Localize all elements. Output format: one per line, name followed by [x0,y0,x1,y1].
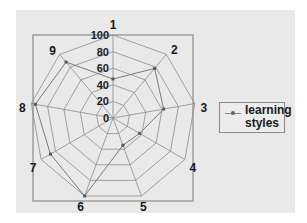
grid-spoke [85,118,113,196]
category-label-8: 8 [19,101,26,115]
tick-label: 20 [97,95,109,107]
legend-marker-icon [231,111,235,115]
data-point-marker [112,77,115,80]
grid-spoke [113,118,141,196]
category-label-9: 9 [49,44,56,58]
category-label-5: 5 [140,200,147,214]
legend-label: learning styles [245,104,285,130]
grid-spoke [113,104,195,118]
legend: learning styles [219,102,285,133]
data-point-marker [121,144,124,147]
data-point-marker [153,67,156,70]
category-label-7: 7 [30,161,37,175]
data-point-marker [49,153,52,156]
category-label-4: 4 [190,161,197,175]
category-label-1: 1 [110,18,117,32]
data-point-marker [34,103,37,106]
category-label-2: 2 [171,43,178,57]
radar-grid [31,35,194,196]
tick-label: 100 [91,29,109,41]
tick-label: 80 [97,46,109,58]
category-label-3: 3 [200,101,207,115]
category-label-6: 6 [77,200,84,214]
tick-label: 0 [103,112,109,124]
tick-label: 60 [97,62,109,74]
data-point-marker [138,132,141,135]
data-point-marker [65,61,68,64]
data-point-marker [83,194,86,197]
tick-label: 40 [97,79,109,91]
data-point-marker [162,108,165,111]
